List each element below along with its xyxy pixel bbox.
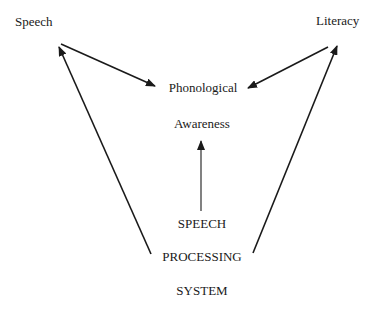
node-phonological-line2: Awareness <box>174 117 230 130</box>
node-processing-line3: SYSTEM <box>176 284 227 297</box>
node-processing-line1: SPEECH <box>178 217 226 230</box>
arrow-speech-to-phonological <box>61 44 155 86</box>
node-phonological-line1: Phonological <box>169 81 238 94</box>
arrow-literacy-to-phonological <box>248 47 328 88</box>
node-literacy: Literacy <box>316 14 359 27</box>
diagram-canvas: Speech Literacy Phonological Awareness S… <box>0 0 378 313</box>
arrows-layer <box>0 0 378 313</box>
arrow-processing-to-literacy <box>253 46 337 253</box>
node-processing-line2: PROCESSING <box>162 250 241 263</box>
node-speech: Speech <box>15 15 53 28</box>
